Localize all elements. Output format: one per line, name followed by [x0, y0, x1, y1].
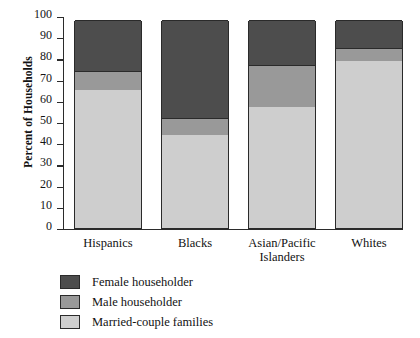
y-tick-mark [57, 208, 64, 209]
y-tick-mark [57, 81, 64, 82]
segment-male-householder [75, 71, 141, 90]
x-axis-label-whites: Whites [313, 236, 420, 250]
category-label-line2: Islanders [226, 250, 338, 264]
legend-swatch-male-householder [60, 295, 80, 309]
y-tick-mark [57, 17, 64, 18]
y-tick-mark [57, 123, 64, 124]
y-tick-mark [57, 165, 64, 166]
bar-group-whites[interactable]: Whites [335, 17, 403, 229]
segment-married-couple-families [336, 61, 402, 229]
segment-male-householder [162, 118, 228, 135]
legend-label: Female householder [92, 275, 193, 289]
bar-group-hispanics[interactable]: Hispanics [74, 17, 142, 229]
segment-female-householder [336, 20, 402, 48]
segment-married-couple-families [249, 107, 315, 228]
stacked-bar[interactable] [161, 21, 229, 229]
x-axis-line [63, 229, 403, 230]
y-tick-label: 50 [40, 114, 52, 126]
bar-group-asian-pacific-islanders[interactable]: Asian/Pacific Islanders [248, 17, 316, 229]
legend-item-married-couple-families[interactable]: Married-couple families [60, 312, 390, 331]
legend-swatch-female-householder [60, 275, 80, 289]
segment-female-householder [162, 20, 228, 118]
segment-married-couple-families [162, 135, 228, 228]
legend-item-female-householder[interactable]: Female householder [60, 272, 390, 291]
y-tick-label: 100 [34, 8, 52, 20]
legend-label: Male householder [92, 295, 182, 309]
stacked-bar[interactable] [335, 21, 403, 229]
stacked-bar[interactable] [74, 21, 142, 229]
y-tick-mark [57, 59, 64, 60]
y-tick-mark [57, 38, 64, 39]
chart-figure: Percent of Households 100 90 80 70 60 50 [0, 0, 420, 338]
y-tick-label: 10 [40, 199, 52, 211]
y-tick-mark [57, 229, 64, 230]
segment-male-householder [336, 48, 402, 61]
chart-legend: Female householder Male householder Marr… [60, 272, 390, 332]
y-tick-mark [57, 187, 64, 188]
segment-female-householder [249, 20, 315, 65]
y-tick-label: 60 [40, 93, 52, 105]
plot-area: 100 90 80 70 60 50 40 30 [64, 17, 400, 229]
segment-female-householder [75, 20, 141, 71]
y-tick-label: 70 [40, 72, 52, 84]
legend-label: Married-couple families [92, 315, 213, 329]
category-label-line1: Whites [313, 236, 420, 250]
y-tick-mark [57, 144, 64, 145]
y-tick-mark [57, 102, 64, 103]
y-tick-label: 80 [40, 50, 52, 62]
y-tick-label: 40 [40, 135, 52, 147]
y-tick-label: 0 [46, 220, 52, 232]
legend-item-male-householder[interactable]: Male householder [60, 292, 390, 311]
y-axis-title: Percent of Households [22, 32, 34, 192]
y-tick-label: 20 [40, 178, 52, 190]
bar-group-blacks[interactable]: Blacks [161, 17, 229, 229]
legend-swatch-married-couple-families [60, 315, 80, 329]
stacked-bar[interactable] [248, 21, 316, 229]
y-tick-label: 30 [40, 156, 52, 168]
segment-married-couple-families [75, 90, 141, 228]
segment-male-householder [249, 65, 315, 107]
y-tick-label: 90 [40, 29, 52, 41]
